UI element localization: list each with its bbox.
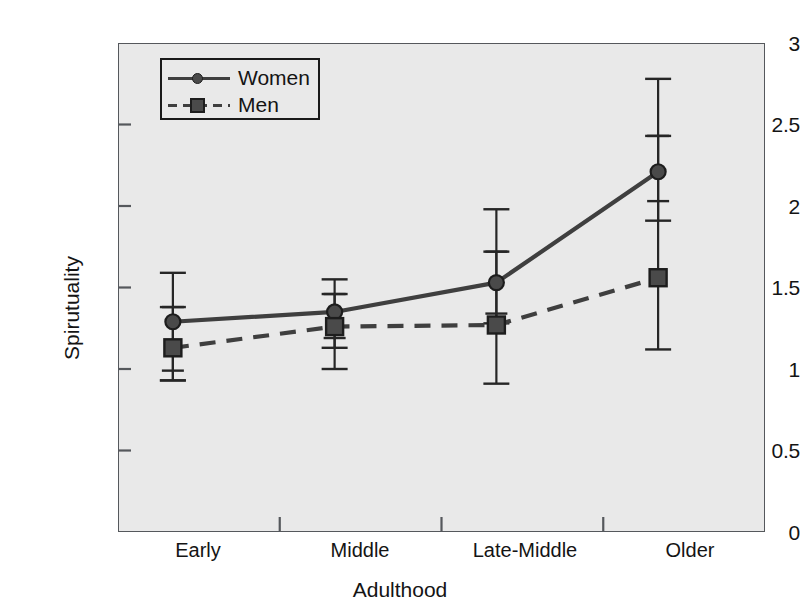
ytick-label-1: 1 — [700, 359, 800, 380]
ytick-label-2: 2 — [700, 196, 800, 217]
ytick-label-3: 3 — [700, 33, 800, 54]
xtick-label-middle: Middle — [331, 540, 390, 560]
ytick-label-0p5: 0.5 — [700, 440, 800, 461]
legend-label-men: Men — [230, 94, 279, 115]
xtick-label-older: Older — [666, 540, 715, 560]
legend-item-men: Men — [168, 91, 312, 118]
chart-figure: 3 2.5 2 1.5 1 0.5 0 Early Middle Late-Mi… — [0, 0, 800, 615]
square-marker-icon — [190, 98, 205, 113]
ytick-label-2p5: 2.5 — [700, 114, 800, 135]
legend: Women Men — [160, 58, 320, 120]
xtick-label-early: Early — [175, 540, 221, 560]
legend-sample-women — [168, 68, 230, 88]
legend-sample-men — [168, 95, 230, 115]
ytick-label-0: 0 — [700, 522, 800, 543]
legend-item-women: Women — [168, 64, 312, 91]
xtick-label-late-middle: Late-Middle — [473, 540, 578, 560]
legend-label-women: Women — [230, 67, 310, 88]
x-axis-title: Adulthood — [0, 578, 800, 602]
ytick-label-1p5: 1.5 — [700, 277, 800, 298]
circle-marker-icon — [192, 73, 203, 84]
y-axis-title: Spirutuality — [60, 256, 84, 360]
